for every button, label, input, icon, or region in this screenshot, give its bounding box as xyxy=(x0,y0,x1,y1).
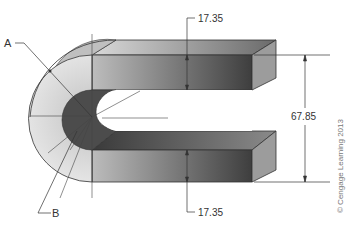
dim-bottom-thickness-value: 17.35 xyxy=(198,207,223,218)
dim-top-thickness-value: 17.35 xyxy=(198,13,223,24)
copyright-text: © Cengage Learning 2013 xyxy=(336,118,345,213)
dim-overall-height-value: 67.85 xyxy=(291,111,316,122)
label-b: B xyxy=(52,207,59,219)
label-a: A xyxy=(4,37,12,49)
top-arm xyxy=(92,40,276,90)
bottom-arm xyxy=(92,131,276,182)
u-bar-drawing: A B 17.35 17.35 67.85 © Cengage Learning… xyxy=(0,0,350,230)
